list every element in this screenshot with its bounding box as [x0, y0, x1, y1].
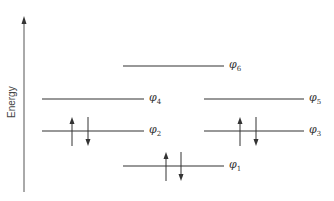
phi-symbol: φ [309, 91, 317, 104]
orbital-index: 1 [237, 165, 241, 173]
orbital-label-phi4: φ4 [149, 92, 161, 106]
orbital-level-phi1 [123, 152, 224, 181]
orbital-level-phi3 [204, 117, 304, 146]
orbital-level-phi2 [42, 117, 144, 146]
energy-axis-arrow-icon [22, 16, 27, 24]
orbital-label-phi2: φ2 [149, 124, 161, 138]
energy-axis [22, 16, 27, 192]
orbital-levels [42, 66, 304, 181]
phi-symbol: φ [149, 123, 157, 136]
phi-symbol: φ [309, 123, 317, 136]
phi-symbol: φ [229, 158, 237, 171]
orbital-index: 3 [317, 130, 321, 138]
energy-axis-label: Energy [6, 86, 17, 118]
mo-energy-diagram [0, 0, 334, 201]
orbital-index: 2 [157, 130, 161, 138]
orbital-index: 6 [237, 65, 241, 73]
orbital-index: 5 [317, 98, 321, 106]
orbital-index: 4 [157, 98, 161, 106]
orbital-label-phi6: φ6 [229, 59, 241, 73]
orbital-label-phi5: φ5 [309, 92, 321, 106]
orbital-label-phi3: φ3 [309, 124, 321, 138]
phi-symbol: φ [229, 58, 237, 71]
phi-symbol: φ [149, 91, 157, 104]
orbital-label-phi1: φ1 [229, 159, 241, 173]
